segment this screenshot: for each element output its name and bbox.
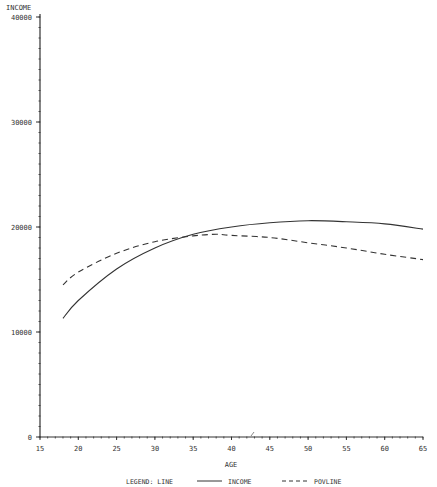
legend: LEGEND: LINE INCOME POVLINE: [126, 478, 341, 486]
x-tick-label: 35: [189, 445, 197, 453]
x-tick-label: 55: [342, 445, 350, 453]
legend-povline-label: POVLINE: [314, 478, 341, 486]
x-tick-label: 40: [227, 445, 235, 453]
x-axis-title: AGE: [225, 461, 238, 469]
line-chart: 010000200003000040000 INCOME 15202530354…: [0, 0, 437, 487]
y-tick-label: 20000: [11, 224, 32, 232]
x-tick-label: 50: [304, 445, 312, 453]
plot-series: [63, 221, 423, 319]
y-axis-title: INCOME: [6, 4, 31, 12]
y-tick-label: 10000: [11, 329, 32, 337]
y-tick-label: 40000: [11, 14, 32, 22]
x-axis: 1520253035404550556065 AGE: [36, 432, 427, 469]
stray-mark: [251, 432, 254, 436]
x-tick-label: 25: [112, 445, 120, 453]
x-tick-label: 45: [266, 445, 274, 453]
y-tick-label: 30000: [11, 119, 32, 127]
x-tick-label: 30: [151, 445, 159, 453]
y-axis: 010000200003000040000 INCOME: [6, 4, 41, 442]
y-tick-label: 0: [28, 434, 32, 442]
income-line: [63, 221, 423, 319]
legend-title: LEGEND: LINE: [126, 478, 173, 486]
povline-line: [63, 234, 423, 284]
x-tick-label: 15: [36, 445, 44, 453]
x-tick-label: 60: [380, 445, 388, 453]
x-tick-label: 20: [74, 445, 82, 453]
x-tick-label: 65: [419, 445, 427, 453]
legend-income-label: INCOME: [228, 478, 252, 486]
